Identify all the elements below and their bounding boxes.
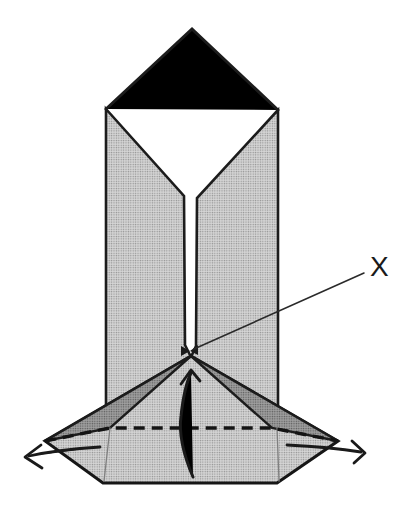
point-label-x: X <box>370 251 389 282</box>
origami-diagram: X <box>0 0 404 514</box>
figure-canvas: X <box>0 0 404 514</box>
pull-left-arrow-head <box>25 445 42 468</box>
diamond-top-edges <box>106 29 278 110</box>
